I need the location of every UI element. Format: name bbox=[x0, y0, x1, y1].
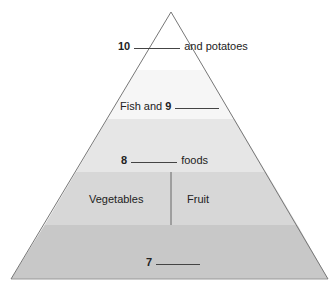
vegetables-label: Vegetables bbox=[89, 193, 143, 205]
answer-blank-10[interactable] bbox=[134, 48, 180, 49]
answer-blank-7[interactable] bbox=[156, 264, 200, 265]
level-fish-label: Fish and 9 bbox=[120, 100, 223, 112]
level-fish-text: Fish and bbox=[120, 100, 162, 112]
level-top-text: and potatoes bbox=[184, 40, 248, 52]
fruit-label: Fruit bbox=[187, 193, 209, 205]
blank-number-10: 10 bbox=[118, 40, 130, 52]
blank-number-9: 9 bbox=[165, 100, 171, 112]
level-top-label: 10and potatoes bbox=[118, 40, 248, 52]
answer-blank-8[interactable] bbox=[131, 162, 177, 163]
answer-blank-9[interactable] bbox=[175, 108, 219, 109]
level-foods-label: 8foods bbox=[121, 154, 208, 166]
blank-number-7: 7 bbox=[146, 256, 152, 268]
level-base-label: 7 bbox=[146, 256, 204, 268]
level-base bbox=[11, 225, 328, 279]
blank-number-8: 8 bbox=[121, 154, 127, 166]
level-foods-text: foods bbox=[181, 154, 208, 166]
